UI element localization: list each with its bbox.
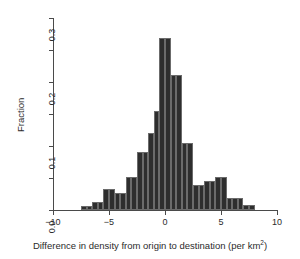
x-tick-mark [277, 211, 278, 215]
y-tick-mark [49, 146, 53, 147]
y-tick-mark [49, 82, 53, 83]
x-tick-label: −5 [104, 218, 114, 227]
x-tick-label: 5 [218, 218, 223, 227]
y-tick-label: 0.3 [48, 29, 57, 42]
x-axis-title: Difference in density from origin to des… [0, 240, 300, 251]
x-tick-label: 0 [162, 218, 167, 227]
x-axis-title-main: Difference in density from origin to des… [33, 240, 260, 251]
x-tick-mark [53, 211, 54, 215]
y-axis-title: Fraction [16, 98, 26, 132]
y-tick-mark [49, 114, 53, 115]
y-tick-label: 0.1 [48, 157, 57, 170]
x-tick-mark [165, 211, 166, 215]
x-tick-mark [109, 211, 110, 215]
y-tick-mark [49, 178, 53, 179]
histogram-chart: 0.00.10.20.3 −10−50510 Fraction Differen… [0, 0, 300, 259]
y-tick-mark [49, 18, 53, 19]
x-tick-mark [221, 211, 222, 215]
histogram-bar [249, 205, 255, 210]
x-tick-label: −10 [45, 218, 60, 227]
x-tick-label: 10 [272, 218, 282, 227]
y-tick-label: 0.2 [48, 93, 57, 106]
x-axis-title-tail: ) [264, 240, 267, 251]
y-axis-line [53, 18, 54, 211]
y-tick-mark [49, 50, 53, 51]
